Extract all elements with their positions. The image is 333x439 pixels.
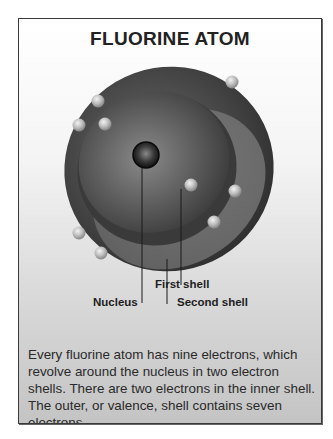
electron — [73, 119, 86, 132]
electron — [95, 247, 108, 260]
nucleus — [133, 142, 159, 168]
electron — [73, 227, 86, 240]
electron — [226, 76, 239, 89]
electron — [92, 95, 105, 108]
electron — [208, 216, 221, 229]
nucleus-label: Nucleus — [93, 296, 138, 308]
second-shell-label: Second shell — [177, 296, 248, 308]
first-shell-label: First shell — [155, 278, 209, 290]
electron — [229, 185, 242, 198]
electron — [185, 179, 198, 192]
electron — [99, 118, 112, 131]
diagram-frame: FLUORINE ATOM — [18, 18, 322, 424]
caption-text: Every fluorine atom has nine electrons, … — [28, 346, 318, 424]
